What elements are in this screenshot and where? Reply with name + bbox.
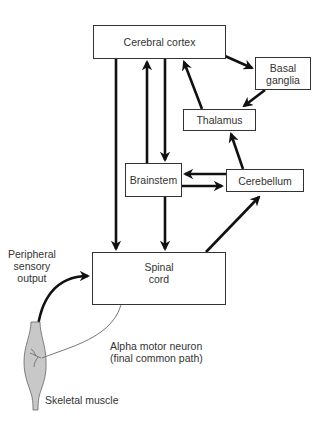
- node-cerebellum: Cerebellum: [226, 169, 304, 192]
- arrow-thalamus-to-cortex: [184, 62, 202, 109]
- label-skeletal-muscle: Skeletal muscle: [45, 394, 119, 406]
- node-label: Basal ganglia: [266, 62, 300, 86]
- node-thalamus: Thalamus: [183, 109, 256, 131]
- node-label: Thalamus: [196, 114, 242, 126]
- arrow-cerebellum-to-thalamus: [231, 134, 243, 169]
- node-brainstem: Brainstem: [125, 163, 182, 197]
- label-peripheral-sensory: Peripheral sensory output: [8, 248, 56, 284]
- node-label: Cerebral cortex: [124, 36, 196, 48]
- arrow-spinal-cord-to-cerebellum: [206, 197, 259, 252]
- arrow-cortex-to-basal-ganglia: [225, 56, 252, 68]
- node-cerebral-cortex: Cerebral cortex: [93, 25, 226, 59]
- node-basal-ganglia: Basal ganglia: [255, 57, 311, 90]
- arrow-basal-ganglia-to-thalamus: [244, 90, 265, 106]
- node-spinal-cord: Spinal cord: [92, 252, 226, 305]
- node-label: Cerebellum: [238, 175, 292, 187]
- node-label: Spinal cord: [144, 261, 173, 285]
- skeletal-muscle-shape: [24, 322, 46, 410]
- arrow-peripheral-sensory: [37, 276, 88, 334]
- node-label: Brainstem: [130, 174, 177, 186]
- label-alpha-motor-neuron: Alpha motor neuron (final common path): [110, 340, 203, 364]
